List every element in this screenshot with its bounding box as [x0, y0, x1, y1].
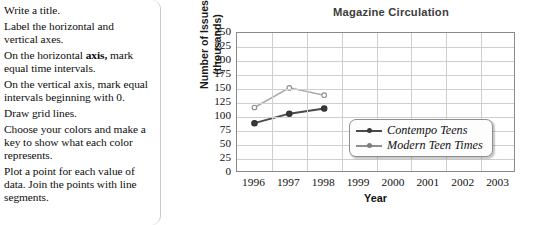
- y-axis-tick-labels: 2502252001751501251007550250: [199, 25, 234, 171]
- y-tick-label: 0: [197, 166, 231, 177]
- legend-label: Contempo Teens: [387, 123, 467, 138]
- vertical-gridline: [272, 33, 273, 171]
- x-axis-tick-labels: 19961997199819992000200120022003: [236, 176, 515, 192]
- list-item: Choose your colors and make a key to sho…: [4, 123, 150, 162]
- horizontal-gridline: [237, 159, 514, 160]
- horizontal-gridline: [237, 117, 514, 118]
- series-line: [254, 87, 324, 107]
- vertical-gridline: [342, 33, 343, 171]
- y-tick-label: 125: [197, 96, 231, 107]
- y-tick-label: 200: [197, 54, 231, 65]
- data-point-marker: [252, 105, 257, 110]
- list-item: Label the horizontal and vertical axes.: [4, 20, 150, 46]
- instructions-list: Write a title. Label the horizontal and …: [4, 4, 150, 204]
- legend-label: Modern Teen Times: [387, 138, 483, 153]
- list-item: Plot a point for each value of data. Joi…: [4, 165, 150, 204]
- legend-swatch-icon: [356, 141, 382, 151]
- list-item: Draw grid lines.: [4, 107, 150, 120]
- vertical-gridline: [307, 33, 308, 171]
- y-tick-label: 75: [197, 124, 231, 135]
- list-item: On the vertical axis, mark equal interva…: [4, 78, 150, 104]
- data-point-marker: [321, 105, 326, 110]
- horizontal-gridline: [237, 103, 514, 104]
- horizontal-gridline: [237, 61, 514, 62]
- x-axis-title: Year: [236, 192, 515, 204]
- chart-panel: Magazine Circulation Number of Issues (t…: [161, 0, 549, 225]
- legend-swatch-icon: [356, 126, 382, 136]
- y-tick-label: 250: [197, 26, 231, 37]
- data-point-marker: [252, 120, 257, 125]
- horizontal-gridline: [237, 75, 514, 76]
- x-tick-label: 2003: [475, 176, 521, 188]
- y-tick-label: 50: [197, 138, 231, 149]
- data-point-marker: [322, 92, 327, 97]
- list-item: On the horizontal axis, mark equal time …: [4, 49, 150, 75]
- y-tick-label: 25: [197, 152, 231, 163]
- horizontal-gridline: [237, 47, 514, 48]
- y-tick-label: 225: [197, 40, 231, 51]
- chart-title: Magazine Circulation: [261, 6, 521, 18]
- data-point-marker: [287, 110, 292, 115]
- legend-item-modern-teen-times: Modern Teen Times: [356, 138, 483, 153]
- horizontal-gridline: [237, 89, 514, 90]
- legend-item-contempo-teens: Contempo Teens: [356, 123, 483, 138]
- y-tick-label: 100: [197, 110, 231, 121]
- y-tick-label: 175: [197, 68, 231, 79]
- instructions-panel: Write a title. Label the horizontal and …: [0, 0, 161, 225]
- chart-legend: Contempo Teens Modern Teen Times: [349, 119, 493, 157]
- list-item: Write a title.: [4, 4, 150, 17]
- y-tick-label: 150: [197, 82, 231, 93]
